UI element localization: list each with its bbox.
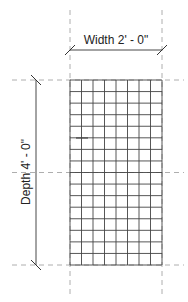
family-plan-drawing: Width 2' - 0" Depth 4' - 0" [0, 0, 188, 302]
width-dimension[interactable]: Width 2' - 0" [65, 33, 167, 55]
depth-dimension[interactable]: Depth 4' - 0" [19, 75, 41, 270]
depth-dimension-label[interactable]: Depth 4' - 0" [19, 139, 33, 205]
width-dimension-label[interactable]: Width 2' - 0" [84, 33, 149, 47]
panel-grid[interactable] [70, 80, 162, 265]
reference-planes [12, 10, 184, 295]
